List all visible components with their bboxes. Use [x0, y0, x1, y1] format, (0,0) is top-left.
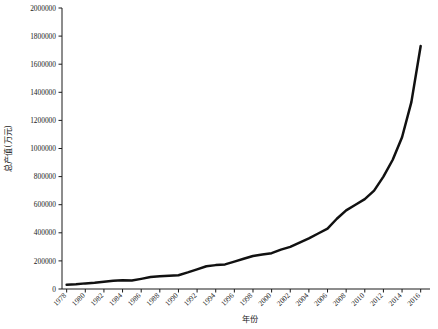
x-axis-title: 年份 — [242, 314, 258, 324]
line-chart: 0200000400000600000800000100000012000001… — [0, 0, 438, 329]
x-axis-group: 1978198019821984198619881990199219941996… — [51, 289, 430, 308]
y-axis-title: 总产值(万元) — [3, 125, 13, 171]
x-tick-label: 1980 — [70, 291, 87, 308]
x-tick-label: 2002 — [275, 291, 292, 308]
x-tick-label: 1996 — [219, 291, 236, 308]
x-axis-ticks — [67, 289, 421, 293]
y-tick-label: 1000000 — [30, 144, 56, 153]
y-tick-label: 400000 — [34, 228, 56, 237]
x-tick-label: 1984 — [107, 291, 124, 308]
y-tick-label: 1200000 — [30, 116, 56, 125]
x-tick-label: 2000 — [256, 291, 273, 308]
x-tick-label: 2006 — [312, 291, 329, 308]
x-tick-label: 1990 — [163, 291, 180, 308]
x-tick-label: 1982 — [89, 291, 106, 308]
x-tick-label: 2012 — [368, 291, 385, 308]
y-tick-label: 800000 — [34, 172, 56, 181]
x-tick-label: 1994 — [200, 291, 217, 308]
y-axis-ticks — [59, 8, 63, 289]
x-tick-label: 1992 — [182, 291, 199, 308]
y-tick-label: 0 — [52, 285, 56, 294]
chart-canvas: 0200000400000600000800000100000012000001… — [0, 0, 438, 329]
x-tick-label: 1998 — [238, 291, 255, 308]
series-group — [67, 46, 421, 285]
y-axis-tick-labels: 0200000400000600000800000100000012000001… — [30, 4, 56, 294]
y-axis-group: 0200000400000600000800000100000012000001… — [30, 4, 62, 294]
x-tick-label: 2016 — [405, 291, 422, 308]
x-tick-label: 2004 — [293, 291, 310, 308]
x-tick-label: 2008 — [331, 291, 348, 308]
y-tick-label: 1600000 — [30, 60, 56, 69]
x-tick-label: 2014 — [387, 291, 404, 308]
x-tick-label: 1988 — [144, 291, 161, 308]
y-tick-label: 1400000 — [30, 88, 56, 97]
x-tick-label: 1986 — [126, 291, 143, 308]
y-tick-label: 200000 — [34, 257, 56, 266]
y-tick-label: 2000000 — [30, 4, 56, 13]
series-line-total-output — [67, 46, 421, 285]
x-tick-label: 2010 — [349, 291, 366, 308]
x-axis-tick-labels: 1978198019821984198619881990199219941996… — [51, 291, 422, 308]
y-tick-label: 600000 — [34, 200, 56, 209]
y-tick-label: 1800000 — [30, 32, 56, 41]
